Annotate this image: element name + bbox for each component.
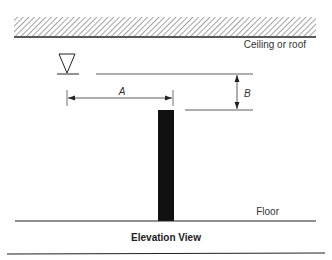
caption-underline — [7, 253, 325, 254]
dimension-b-label: B — [244, 88, 251, 99]
dimension-a-label: A — [118, 86, 126, 97]
elevation-diagram: Ceiling or roof A B Floor Elevation View — [0, 0, 332, 260]
inverted-triangle-icon — [57, 54, 79, 74]
ceiling-label: Ceiling or roof — [244, 39, 306, 50]
column — [158, 110, 174, 221]
ceiling-hatch — [14, 17, 316, 36]
floor-label: Floor — [256, 206, 279, 217]
caption: Elevation View — [131, 232, 201, 243]
